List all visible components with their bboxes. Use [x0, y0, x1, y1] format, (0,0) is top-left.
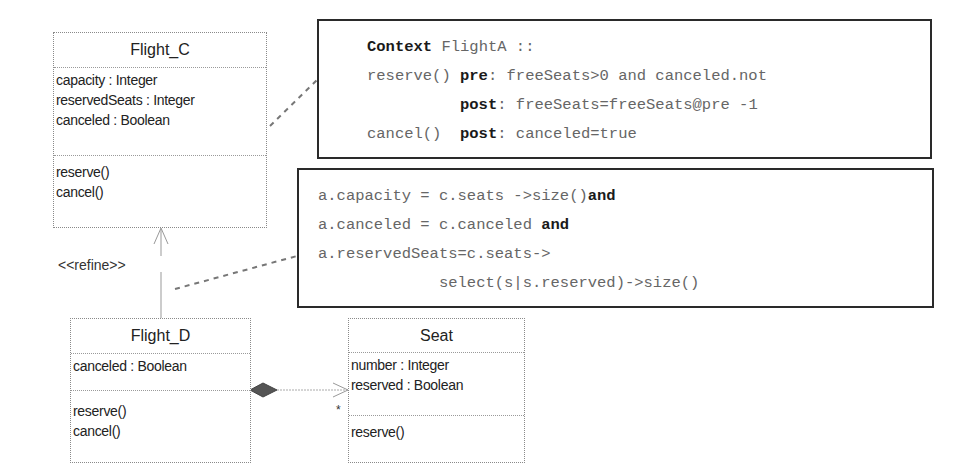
- composition-diamond: [250, 383, 277, 397]
- ocl-line: cancel() post: canceled=true: [367, 125, 637, 143]
- attributes-section: canceled : Boolean: [71, 354, 250, 391]
- text: reserve(): [367, 67, 460, 85]
- class-name: Flight_C: [54, 33, 266, 68]
- class-name: Flight_D: [71, 319, 250, 354]
- text: cancel(): [367, 125, 460, 143]
- operations-section: reserve() cancel(): [54, 156, 266, 202]
- keyword: and: [541, 216, 569, 234]
- attribute: canceled : Boolean: [56, 110, 266, 130]
- text: : freeSeats=freeSeats@pre -1: [497, 96, 757, 114]
- ocl-line: post: freeSeats=freeSeats@pre -1: [367, 96, 758, 114]
- indent: [367, 96, 460, 114]
- operation: reserve(): [351, 422, 524, 442]
- class-seat[interactable]: Seat number : Integer reserved : Boolean…: [348, 318, 525, 463]
- attribute: canceled : Boolean: [73, 356, 250, 376]
- text: a.capacity = c.seats ->size(): [318, 187, 588, 205]
- ocl-line: reserve() pre: freeSeats>0 and canceled.…: [367, 67, 767, 85]
- attribute: reservedSeats : Integer: [56, 90, 266, 110]
- ocl-line: a.reservedSeats=c.seats->: [318, 245, 551, 263]
- attribute: number : Integer: [351, 355, 524, 375]
- keyword: pre: [460, 67, 488, 85]
- class-flight-d[interactable]: Flight_D canceled : Boolean reserve() ca…: [70, 318, 251, 463]
- ocl-line: a.capacity = c.seats ->size()and: [318, 187, 616, 205]
- attribute: reserved : Boolean: [351, 375, 524, 395]
- note-anchor-mapping: [175, 256, 297, 289]
- keyword: and: [588, 187, 616, 205]
- text: : canceled=true: [497, 125, 637, 143]
- ocl-line: Context FlightA ::: [367, 38, 534, 56]
- keyword: post: [460, 96, 497, 114]
- ocl-line: select(s|s.reserved)->size(): [318, 274, 699, 292]
- attributes-section: capacity : Integer reservedSeats : Integ…: [54, 68, 266, 156]
- keyword: post: [460, 125, 497, 143]
- multiplicity-label: *: [336, 403, 341, 417]
- ocl-context-note: Context FlightA :: reserve() pre: freeSe…: [317, 19, 932, 159]
- refine-stereotype-label: <<refine>>: [58, 257, 126, 273]
- note-anchor-context: [270, 80, 317, 126]
- attributes-section: number : Integer reserved : Boolean: [349, 353, 524, 416]
- text: : freeSeats>0 and canceled.not: [488, 67, 767, 85]
- operations-section: reserve(): [349, 416, 524, 442]
- operation: reserve(): [73, 401, 250, 421]
- text: FlightA ::: [432, 38, 534, 56]
- class-flight-c[interactable]: Flight_C capacity : Integer reservedSeat…: [53, 32, 267, 228]
- operation: cancel(): [73, 421, 250, 441]
- attribute: capacity : Integer: [56, 70, 266, 90]
- ocl-line: a.canceled = c.canceled and: [318, 216, 569, 234]
- text: a.canceled = c.canceled: [318, 216, 541, 234]
- class-name: Seat: [349, 319, 524, 353]
- operations-section: reserve() cancel(): [71, 391, 250, 441]
- ocl-mapping-note: a.capacity = c.seats ->size()and a.cance…: [297, 168, 934, 308]
- keyword: Context: [367, 38, 432, 56]
- operation: cancel(): [56, 182, 266, 202]
- operation: reserve(): [56, 162, 266, 182]
